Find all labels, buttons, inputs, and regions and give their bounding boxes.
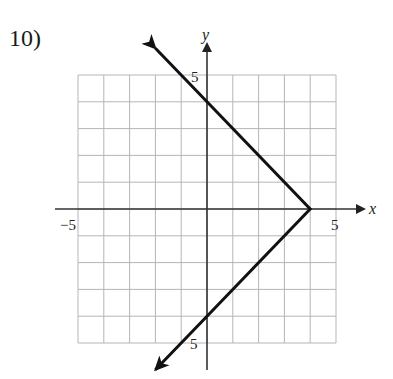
axes bbox=[55, 44, 364, 370]
x-tick-neg5: −5 bbox=[60, 217, 76, 233]
x-tick-pos5: 5 bbox=[331, 217, 339, 233]
coordinate-plane: x y −5 5 5 5 bbox=[0, 0, 393, 379]
x-axis-label: x bbox=[368, 200, 376, 217]
y-axis-label: y bbox=[200, 26, 210, 44]
y-tick-pos5: 5 bbox=[191, 69, 199, 85]
y-tick-neg5: 5 bbox=[190, 336, 198, 352]
